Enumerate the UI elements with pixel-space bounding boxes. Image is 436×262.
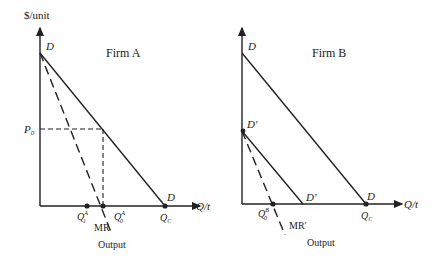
firm-b-qc-point bbox=[363, 201, 368, 206]
firm-a-q1-label: QA1 bbox=[77, 210, 88, 224]
firm-a-title: Firm A bbox=[106, 46, 141, 60]
firm-a-q0-point bbox=[100, 203, 105, 208]
firm-b-d-prime-point bbox=[241, 129, 246, 134]
firm-a-demand-bottom-label: D bbox=[166, 191, 175, 203]
firm-b-q0-point bbox=[270, 201, 275, 206]
firm-a-q1-point bbox=[84, 203, 89, 208]
firm-b-demand-curve bbox=[242, 53, 366, 204]
firm-a-qc-label: QC bbox=[160, 212, 172, 224]
firm-b-demand-prime-bottom-label: D′ bbox=[305, 191, 317, 203]
firm-a-panel: $/unit D Firm A P0 D Q/t QA1 QA0 QC MR O… bbox=[23, 9, 211, 250]
firm-b-mr-prime-label: MR′ bbox=[289, 220, 307, 231]
firm-b-demand-prime-curve bbox=[242, 131, 303, 204]
y-axis-label: $/unit bbox=[24, 9, 50, 21]
firm-b-output-label: Output bbox=[307, 237, 335, 248]
diagram-canvas: $/unit D Firm A P0 D Q/t QA1 QA0 QC MR O… bbox=[0, 0, 436, 262]
firm-b-q0-label: QB0 bbox=[258, 207, 269, 221]
firm-a-x-axis-label: Q/t bbox=[196, 200, 211, 212]
firm-a-mr-label: MR bbox=[94, 222, 110, 233]
firm-b-demand-prime-top-label: D′ bbox=[246, 118, 258, 130]
firm-a-demand-top-label: D bbox=[45, 40, 54, 52]
firm-b-panel: D Firm B D′ D′ D Q/t QB0 QC MR′ Output bbox=[241, 28, 419, 248]
firm-a-price-label: P0 bbox=[23, 123, 35, 137]
firm-b-qc-label: QC bbox=[361, 210, 373, 222]
firm-a-qc-point bbox=[162, 203, 167, 208]
firm-b-demand-bottom-label: D bbox=[366, 190, 375, 202]
firm-b-demand-top-label: D bbox=[247, 40, 256, 52]
firm-a-output-label: Output bbox=[98, 239, 126, 250]
firm-a-q0-label: QA0 bbox=[114, 210, 125, 224]
firm-b-title: Firm B bbox=[312, 46, 346, 60]
firm-b-x-axis-label: Q/t bbox=[404, 198, 419, 210]
firm-a-mr-curve bbox=[40, 53, 111, 232]
